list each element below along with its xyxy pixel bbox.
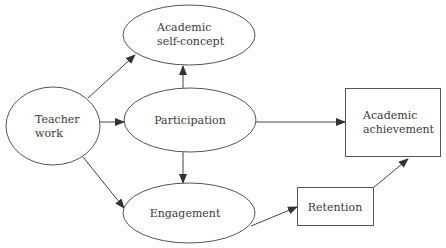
- self-concept-label-line2: self-concept: [157, 35, 225, 48]
- edge-retention-to-achievement: [373, 159, 408, 188]
- node-teacher-work: Teacher work: [6, 87, 100, 165]
- node-participation: Participation: [124, 88, 256, 152]
- path-diagram: Teacher work Academic self-concept Parti…: [0, 0, 446, 248]
- engagement-label: Engagement: [150, 207, 221, 220]
- node-engagement: Engagement: [123, 183, 255, 243]
- retention-label: Retention: [308, 201, 362, 214]
- node-academic-achievement: Academic achievement: [346, 89, 441, 157]
- achievement-label-line2: achievement: [363, 123, 435, 136]
- participation-label: Participation: [154, 114, 226, 127]
- edge-teacher-to-engagement: [83, 157, 124, 208]
- teacher-work-label-line1: Teacher: [35, 113, 80, 126]
- achievement-label-line1: Academic: [362, 109, 417, 122]
- edge-teacher-to-selfconcept: [88, 55, 135, 98]
- self-concept-label-line1: Academic: [156, 21, 211, 34]
- edge-engagement-to-retention: [251, 207, 297, 226]
- teacher-work-label-line2: work: [35, 127, 63, 140]
- node-retention: Retention: [298, 188, 374, 226]
- node-academic-self-concept: Academic self-concept: [123, 5, 255, 65]
